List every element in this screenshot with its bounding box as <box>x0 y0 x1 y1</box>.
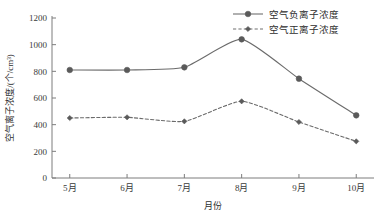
chart-container: 020040060080010001200 5月6月7月8月9月10月 空气负离… <box>0 0 390 218</box>
data-point <box>239 37 245 43</box>
data-point <box>67 67 73 73</box>
y-axis-tick-label: 400 <box>34 120 48 130</box>
y-axis-tick-label: 0 <box>43 173 48 183</box>
y-axis-tick-label: 1200 <box>29 13 48 23</box>
data-point <box>182 65 188 71</box>
x-axis-tick-label: 10月 <box>347 183 365 193</box>
x-axis-tick-label: 6月 <box>120 183 134 193</box>
y-axis-title: 空气离子浓度/(个/cm³) <box>4 54 15 142</box>
x-axis-tick-label: 9月 <box>292 183 306 193</box>
data-point <box>124 67 130 73</box>
data-point <box>296 76 302 82</box>
x-axis-title: 月份 <box>204 200 222 211</box>
legend-label: 空气负离子浓度 <box>269 9 339 20</box>
legend-marker <box>245 11 251 17</box>
x-axis-tick-label: 7月 <box>178 183 192 193</box>
line-chart: 020040060080010001200 5月6月7月8月9月10月 空气负离… <box>0 0 390 218</box>
x-axis-tick-label: 8月 <box>235 183 249 193</box>
y-axis-tick-label: 200 <box>34 147 48 157</box>
y-axis-tick-label: 1000 <box>29 40 48 50</box>
legend-label: 空气正离子浓度 <box>269 24 339 35</box>
y-axis-tick-label: 800 <box>34 67 48 77</box>
x-axis-tick-label: 5月 <box>63 183 77 193</box>
data-point <box>353 113 359 119</box>
y-axis-tick-label: 600 <box>34 93 48 103</box>
